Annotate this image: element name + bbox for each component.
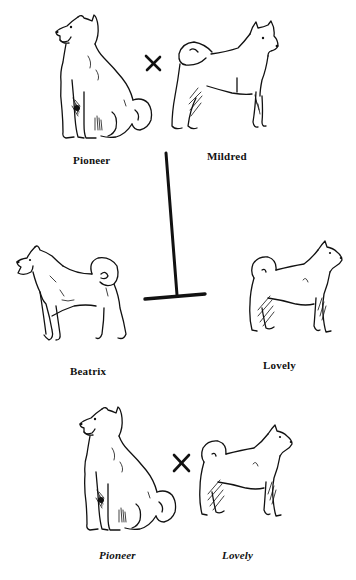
descent-t-bar	[145, 153, 205, 299]
cross-symbol-bottom	[174, 455, 189, 471]
pedigree-diagram	[0, 0, 356, 580]
label-lovely-middle: Lovely	[263, 359, 296, 371]
label-pioneer-bottom: Pioneer	[99, 549, 136, 561]
dog-lovely-standing-middle	[250, 241, 343, 332]
dog-pioneer-sitting-top	[56, 15, 152, 138]
dog-beatrix-standing	[16, 246, 126, 340]
label-pioneer-top: Pioneer	[73, 154, 110, 166]
label-mildred: Mildred	[207, 150, 247, 162]
label-beatrix: Beatrix	[70, 365, 106, 377]
dog-mildred-standing	[172, 21, 278, 129]
dog-pioneer-sitting-bottom	[80, 407, 176, 530]
label-lovely-bottom: Lovely	[222, 549, 253, 561]
cross-symbol-top	[146, 56, 160, 70]
dog-lovely-standing-bottom	[200, 425, 293, 516]
